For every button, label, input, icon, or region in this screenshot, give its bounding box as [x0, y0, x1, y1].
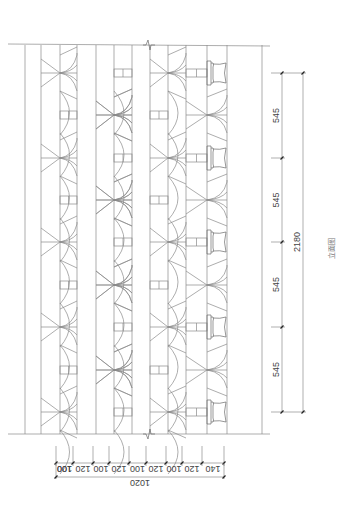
lattice-pattern	[41, 47, 227, 474]
elevation-drawing: 1401201001201001201001201001001020 54554…	[0, 0, 359, 509]
lattice-connector	[186, 238, 207, 246]
dimension-label: 545	[271, 192, 281, 207]
lattice-knot	[186, 259, 227, 311]
baluster-ornament	[207, 315, 226, 339]
lattice-arc	[168, 260, 178, 304]
dimension-label: 120	[75, 464, 90, 474]
lattice-connector	[186, 323, 207, 331]
total-dimension-label: 2180	[292, 232, 302, 252]
vertical-dimension: 5455455455452180	[271, 72, 306, 414]
dimension-label: 100	[57, 464, 72, 474]
baluster-ornament	[207, 146, 226, 170]
lattice-arc	[114, 388, 124, 432]
lattice-knot	[41, 301, 77, 353]
lattice-connector	[114, 154, 132, 162]
baluster-ornament	[207, 61, 226, 85]
lattice-arc	[114, 303, 124, 347]
lattice-knot	[41, 47, 77, 99]
horizontal-dimension: 1401201001201001201001201001001020	[55, 446, 226, 488]
top-edge-line	[8, 44, 270, 46]
lattice-knot	[186, 89, 227, 141]
lattice-connector	[186, 154, 207, 162]
lattice-arc	[168, 345, 178, 389]
lattice-connector	[186, 408, 207, 416]
drawing-title: 立面图	[327, 238, 336, 259]
lattice-connector	[186, 69, 207, 77]
lattice-connector	[150, 111, 168, 119]
lattice-connector	[60, 196, 77, 204]
lattice-connector	[60, 366, 77, 374]
lattice-connector	[114, 69, 132, 77]
lattice-connector	[114, 238, 132, 246]
dimension-label: 545	[271, 277, 281, 292]
lattice-arc	[114, 218, 124, 262]
lattice-connector	[60, 281, 77, 289]
total-dimension-label: 1020	[130, 478, 150, 488]
lattice-arc	[114, 133, 124, 177]
lattice-connector	[114, 408, 132, 416]
dimension-label: 100	[93, 464, 108, 474]
baluster-ornament	[207, 400, 226, 424]
dimension-label: 120	[111, 464, 126, 474]
lattice-knot	[186, 344, 227, 396]
lattice-connector	[150, 196, 168, 204]
baluster-ornament	[207, 230, 226, 254]
lattice-arc	[60, 91, 70, 135]
dimension-label: 120	[184, 464, 199, 474]
lattice-connector	[60, 111, 77, 119]
break-line-icon	[143, 40, 155, 50]
dimension-label: 545	[271, 362, 281, 377]
lattice-arc	[168, 91, 178, 135]
lattice-knot	[41, 132, 77, 184]
lattice-arc	[60, 176, 70, 220]
lattice-knot	[41, 216, 77, 268]
dimension-label: 140	[205, 464, 220, 474]
lattice-knot	[41, 386, 77, 438]
dimension-label: 100	[130, 464, 145, 474]
lattice-connector	[150, 366, 168, 374]
dimension-label: 545	[271, 108, 281, 123]
lattice-connector	[150, 281, 168, 289]
lattice-knot	[186, 174, 227, 226]
dimension-label: 120	[148, 464, 163, 474]
break-line-icon	[143, 429, 155, 439]
lattice-arc	[60, 345, 70, 389]
dimension-label: 100	[166, 464, 181, 474]
lattice-arc	[60, 260, 70, 304]
panel-frame	[8, 40, 270, 439]
lattice-connector	[114, 323, 132, 331]
lattice-arc	[168, 176, 178, 220]
